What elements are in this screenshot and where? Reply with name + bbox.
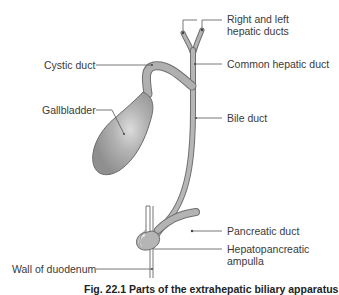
- label-right-left-hepatic-line2: hepatic ducts: [227, 25, 289, 37]
- gallbladder-shape: [93, 92, 153, 175]
- label-pancreatic-duct: Pancreatic duct: [227, 225, 299, 237]
- label-right-left-hepatic-line1: Right and left: [227, 13, 289, 25]
- pancreatic-duct: [158, 212, 196, 230]
- label-gallbladder: Gallbladder: [42, 104, 96, 116]
- label-wall-of-duodenum: Wall of duodenum: [12, 263, 96, 275]
- label-ampulla-line2: ampulla: [227, 255, 264, 267]
- hepatopancreatic-ampulla: [136, 230, 159, 250]
- label-bile-duct: Bile duct: [227, 112, 267, 124]
- label-common-hepatic-duct: Common hepatic duct: [227, 58, 329, 70]
- figure-caption: Fig. 22.1 Parts of the extrahepatic bili…: [84, 283, 338, 295]
- cystic-duct: [146, 66, 192, 94]
- label-ampulla-line1: Hepatopancreatic: [227, 243, 309, 255]
- label-cystic-duct: Cystic duct: [44, 59, 95, 71]
